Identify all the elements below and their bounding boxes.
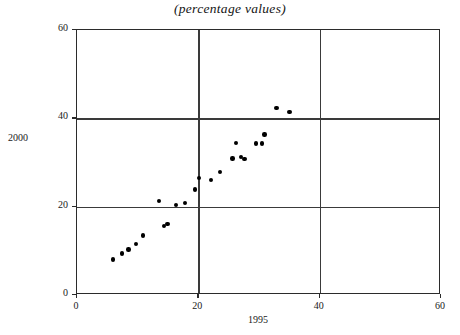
plot-frame	[76, 29, 440, 294]
y-tick-label: 60	[26, 22, 68, 33]
data-point	[209, 178, 213, 182]
chart-title: (percentage values)	[0, 1, 460, 17]
data-point	[157, 199, 161, 203]
data-point	[141, 233, 145, 237]
x-axis-label: 1995	[76, 314, 440, 325]
data-point	[262, 132, 266, 136]
y-tick-label: 20	[26, 199, 68, 210]
chart-page: (percentage values) 0204060 0204060 1995…	[0, 0, 460, 335]
y-tick	[72, 206, 76, 207]
data-point	[197, 176, 201, 180]
data-point	[242, 157, 246, 161]
y-tick-label: 0	[26, 287, 68, 298]
y-tick	[72, 117, 76, 118]
data-point	[274, 106, 278, 110]
data-point	[234, 141, 238, 145]
data-point	[287, 110, 291, 114]
data-point	[260, 141, 264, 145]
data-point	[254, 141, 258, 145]
x-tick-label: 0	[56, 300, 96, 311]
data-point	[120, 251, 124, 255]
x-tick	[197, 294, 198, 298]
data-point	[174, 203, 178, 207]
x-tick	[76, 294, 77, 298]
data-point	[126, 247, 130, 251]
data-point	[218, 170, 222, 174]
data-point	[165, 222, 169, 226]
x-tick-label: 60	[420, 300, 460, 311]
data-point	[183, 201, 187, 205]
gridline-horizontal	[77, 207, 439, 208]
data-point	[111, 257, 115, 261]
y-axis-label: 2000	[8, 132, 56, 143]
data-point	[193, 187, 197, 191]
data-point	[134, 242, 138, 246]
x-tick	[440, 294, 441, 298]
gridline-vertical	[198, 30, 199, 293]
x-tick-label: 40	[299, 300, 339, 311]
y-tick-label: 40	[26, 110, 68, 121]
plot-area	[77, 30, 439, 293]
x-tick-label: 20	[177, 300, 217, 311]
y-tick	[72, 294, 76, 295]
y-tick	[72, 29, 76, 30]
data-point	[230, 156, 234, 160]
gridline-vertical	[320, 30, 321, 293]
x-tick	[319, 294, 320, 298]
gridline-horizontal	[77, 118, 439, 119]
